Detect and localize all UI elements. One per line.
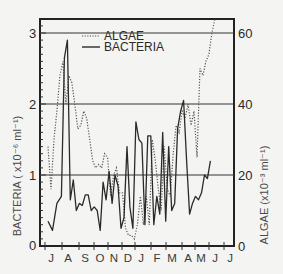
left-tick-2: 2 <box>29 97 36 112</box>
month-label: O <box>96 252 105 264</box>
right-tick-60: 60 <box>238 26 252 41</box>
dual-axis-line-chart: 0 1 2 3 0 20 40 60 BACTERIA ( x10⁻⁶ ml⁻¹… <box>0 0 283 274</box>
right-tick-40: 40 <box>238 97 252 112</box>
left-tick-1: 1 <box>29 168 36 183</box>
month-label: A <box>64 252 72 264</box>
right-axis-title: ALGAE (x10⁻³ ml⁻¹) <box>258 146 270 245</box>
right-tick-0: 0 <box>238 239 245 254</box>
month-label: J <box>138 252 144 264</box>
month-label: F <box>153 252 160 264</box>
month-label: D <box>124 252 132 264</box>
left-axis-title: BACTERIA ( x10⁻⁶ ml⁻¹) <box>11 116 23 236</box>
month-label: M <box>196 252 206 264</box>
month-label: A <box>184 252 192 264</box>
bacteria-series-line <box>48 40 210 230</box>
month-label: S <box>81 252 89 264</box>
month-label: J <box>212 252 218 264</box>
month-label: J <box>227 252 233 264</box>
month-label: N <box>110 252 118 264</box>
legend-bacteria-label: BACTERIA <box>104 40 164 54</box>
month-label: M <box>167 252 177 264</box>
right-tick-20: 20 <box>238 168 252 183</box>
month-label: J <box>48 252 54 264</box>
left-tick-0: 0 <box>29 238 36 253</box>
x-axis-month-labels: JASONDJFMAMJJ <box>48 252 233 264</box>
left-tick-3: 3 <box>29 26 36 41</box>
